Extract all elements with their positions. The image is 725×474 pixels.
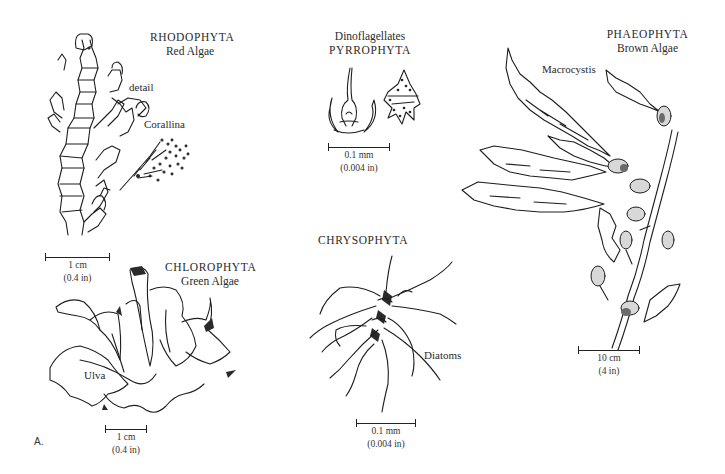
scale-bar-line [105, 422, 147, 430]
phaeophyta-common-name: Brown Algae [605, 42, 690, 55]
phaeophyta-title: PHAEOPHYTA [605, 28, 690, 41]
scale-metric: 0.1 mm [328, 150, 390, 161]
corallina-detail-sprig [120, 139, 189, 190]
scale-metric: 0.1 mm [356, 426, 416, 437]
scale-imperial: (0.004 in) [356, 439, 416, 450]
chlorophyta-scale-bar: 1 cm (0.4 in) [105, 422, 147, 456]
scale-metric: 1 cm [45, 260, 110, 271]
scale-bar-line [356, 416, 416, 424]
chlorophyta-title: CHLOROPHYTA [165, 261, 255, 274]
rhodophyta-detail-annotation: detail [129, 81, 153, 94]
chrysophyta-title: CHRYSOPHYTA [318, 234, 408, 247]
corallina-drawing [48, 34, 149, 235]
ulva-annotation: Ulva [84, 369, 105, 382]
macrocystis-drawing [462, 48, 680, 350]
pyrrophyta-scale-bar: 0.1 mm (0.004 in) [328, 140, 390, 174]
algae-divisions-figure: RHODOPHYTA Red Algae detail Corallina 1 … [0, 0, 725, 474]
dinoflagellate-drawing-left [329, 68, 376, 133]
scale-imperial: (0.004 in) [328, 163, 390, 174]
rhodophyta-scale-bar: 1 cm (0.4 in) [45, 250, 110, 284]
scale-metric: 10 cm [578, 353, 640, 364]
chlorophyta-common-name: Green Algae [165, 275, 255, 288]
dinoflagellate-drawing-right [384, 70, 420, 124]
chrysophyta-scale-bar: 0.1 mm (0.004 in) [356, 416, 416, 450]
scale-bar-line [578, 343, 640, 351]
diatom-drawing [310, 256, 456, 412]
corallina-annotation: Corallina [144, 118, 185, 131]
panel-letter: A. [34, 436, 43, 447]
rhodophyta-common-name: Red Algae [150, 45, 230, 58]
diatoms-annotation: Diatoms [424, 349, 461, 362]
pyrrophyta-title: PYRROPHYTA [320, 44, 420, 57]
rhodophyta-title: RHODOPHYTA [150, 31, 230, 44]
scale-imperial: (0.4 in) [105, 445, 147, 456]
scale-bar-line [45, 250, 110, 258]
pyrrophyta-common-name: Dinoflagellates [320, 30, 420, 43]
phaeophyta-scale-bar: 10 cm (4 in) [578, 343, 640, 377]
scale-bar-line [328, 140, 390, 148]
scale-metric: 1 cm [105, 432, 147, 443]
scale-imperial: (0.4 in) [45, 273, 110, 284]
scale-imperial: (4 in) [578, 366, 640, 377]
macrocystis-annotation: Macrocystis [542, 63, 596, 76]
